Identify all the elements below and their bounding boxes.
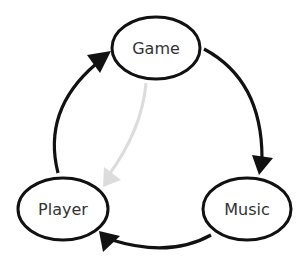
edge-line (204, 49, 262, 158)
edge-game-to-music (204, 49, 273, 175)
edge-line (54, 64, 96, 173)
node-player[interactable]: Player (18, 178, 108, 240)
node-game[interactable]: Game (112, 17, 200, 79)
edge-player-to-game (54, 51, 111, 173)
edge-line (108, 83, 146, 176)
node-label: Game (132, 39, 180, 58)
edge-line (112, 235, 211, 248)
node-label: Player (38, 200, 88, 219)
node-music[interactable]: Music (203, 178, 291, 240)
cycle-diagram: Game Music Player (0, 0, 304, 262)
diagram-svg: Game Music Player (0, 0, 304, 262)
edge-music-to-player (99, 231, 211, 252)
edge-game-to-player (103, 83, 146, 187)
node-label: Music (224, 200, 270, 219)
arrowhead-icon (252, 155, 273, 175)
